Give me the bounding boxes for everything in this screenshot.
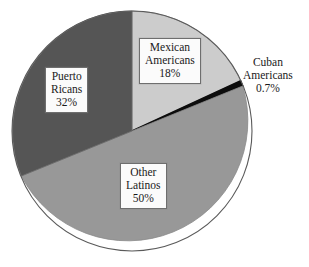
slice-label-line-1: Other xyxy=(126,166,161,179)
slice-label-value: 50% xyxy=(126,192,161,205)
pie-chart-figure: Mexican Americans 18% Cuban Americans 0.… xyxy=(0,0,309,267)
slice-label-line-2: Ricans xyxy=(51,83,82,96)
slice-label-other-latinos[interactable]: Other Latinos 50% xyxy=(120,163,167,209)
slice-label-cuban-americans[interactable]: Cuban Americans 0.7% xyxy=(243,56,293,95)
slice-label-line-2: Americans xyxy=(243,69,293,82)
slice-label-value: 0.7% xyxy=(243,82,293,95)
slice-label-line-1: Mexican xyxy=(145,41,195,54)
slice-label-value: 32% xyxy=(51,96,82,109)
slice-label-line-2: Latinos xyxy=(126,179,161,192)
slice-label-puerto-ricans[interactable]: Puerto Ricans 32% xyxy=(45,67,88,113)
slice-label-mexican-americans[interactable]: Mexican Americans 18% xyxy=(139,38,201,84)
slice-label-line-1: Puerto xyxy=(51,70,82,83)
slice-label-line-1: Cuban xyxy=(243,56,293,69)
slice-label-value: 18% xyxy=(145,67,195,80)
slice-label-line-2: Americans xyxy=(145,54,195,67)
